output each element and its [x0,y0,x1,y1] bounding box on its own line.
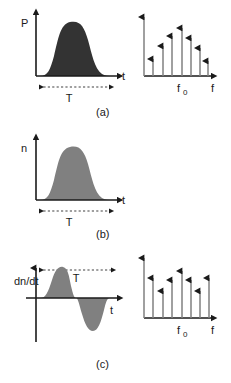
f0-sub-c: 0 [183,330,188,339]
panel-c-spectrum-plot: f 0 f [132,252,227,357]
panel-a-time-plot: P t T [14,0,132,105]
f-axis-label-a: f [211,82,215,94]
panel-c: dn/dt t T [0,252,231,383]
spectral-lines-c [153,271,209,318]
pulse-waveform-b [36,147,112,200]
pulse-waveform-a [36,22,112,76]
panel-a-spectrum-plot: f 0 f [132,0,227,105]
f0-label-a: f [177,82,181,94]
y-axis-label-a: P [21,17,28,29]
panel-caption-c: (c) [96,358,109,370]
duration-label-a: T [66,92,73,104]
x-axis-label-b: t [122,194,125,206]
derivative-positive-lobe-c [40,267,76,298]
f0-sub-a: 0 [183,88,188,97]
panel-b: n t T (b) [0,130,231,252]
y-axis-label-b: n [21,142,27,154]
panel-b-time-plot: n t T [14,130,132,230]
duration-label-b: T [66,216,73,228]
panel-c-time-plot: dn/dt t T [14,252,132,357]
f-axis-label-c: f [211,324,215,336]
figure-root: P t T [0,0,231,383]
panel-a: P t T [0,0,231,130]
x-axis-label-c: t [110,304,113,316]
panel-caption-a: (a) [96,106,109,118]
duration-label-c: T [73,272,80,284]
derivative-negative-lobe-c [76,298,110,331]
y-axis-label-c: dn/dt [14,275,38,287]
panel-caption-b: (b) [96,228,109,240]
x-axis-label-a: t [122,70,125,82]
spectral-lines-a [153,28,208,76]
f0-label-c: f [177,324,181,336]
